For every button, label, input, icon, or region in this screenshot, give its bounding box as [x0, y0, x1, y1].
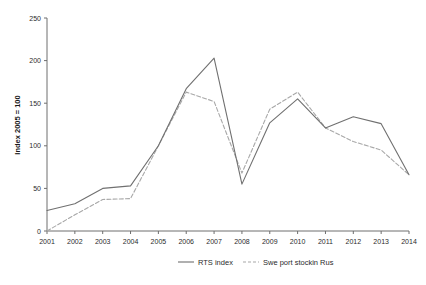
y-tick-label: 50	[33, 185, 41, 192]
y-tick-label: 200	[29, 57, 41, 64]
x-tick-label: 2002	[67, 238, 83, 245]
x-tick-label: 2013	[373, 238, 389, 245]
x-tick-label: 2005	[151, 238, 167, 245]
y-tick-label: 150	[29, 100, 41, 107]
legend-label-swe-port-stockin-rus: Swe port stockin Rus	[263, 258, 334, 267]
x-tick-label: 2001	[39, 238, 55, 245]
x-tick-label: 2006	[178, 238, 194, 245]
y-tick-label: 250	[29, 15, 41, 22]
line-chart: 050100150200250 200120022003200420052006…	[0, 0, 426, 285]
x-tick-label: 2008	[234, 238, 250, 245]
y-tick-label: 100	[29, 142, 41, 149]
x-tick-label: 2014	[401, 238, 417, 245]
x-tick-label: 2003	[95, 238, 111, 245]
x-tick-label: 2007	[206, 238, 222, 245]
y-axis-title: Index 2005 = 100	[13, 95, 22, 154]
x-tick-label: 2004	[123, 238, 139, 245]
y-tick-label: 0	[37, 228, 41, 235]
x-tick-label: 2011	[318, 238, 333, 245]
x-tick-label: 2009	[262, 238, 278, 245]
x-tick-label: 2012	[346, 238, 362, 245]
chart-svg: 050100150200250 200120022003200420052006…	[0, 0, 426, 285]
x-tick-label: 2010	[290, 238, 306, 245]
legend-label-rts-index: RTS index	[198, 258, 233, 267]
